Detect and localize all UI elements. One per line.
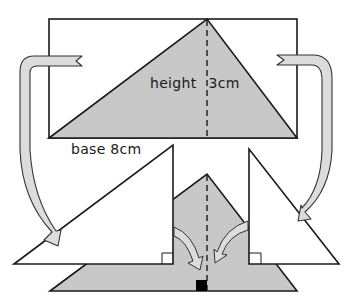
height-label-text: height bbox=[150, 75, 196, 91]
area-of-triangle-diagram: height3cm base 8cm bbox=[0, 0, 348, 307]
height-value-text: 3cm bbox=[208, 75, 239, 91]
base-label: base 8cm bbox=[71, 142, 141, 156]
diagram-graphic bbox=[0, 0, 348, 307]
height-label: height3cm bbox=[150, 76, 240, 90]
height-foot-marker bbox=[196, 280, 207, 291]
